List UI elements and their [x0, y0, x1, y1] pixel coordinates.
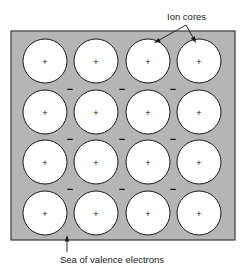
ion-core-charge-symbol: +: [93, 108, 98, 118]
ion-core-charge-symbol: +: [42, 209, 47, 219]
valence-electron-symbol: −: [67, 133, 73, 145]
ion-core-charge-symbol: +: [42, 108, 47, 118]
ion-core: +: [23, 39, 67, 83]
ion-core: +: [126, 39, 170, 83]
ion-core: +: [74, 191, 118, 235]
diagram-canvas: ++++++++++++++++ −−−−−−−−− Ion cores Sea…: [0, 0, 248, 269]
ion-core: +: [23, 140, 67, 184]
ion-core-charge-symbol: +: [93, 57, 98, 67]
valence-electron-symbol: −: [119, 133, 125, 145]
ion-core-charge-symbol: +: [42, 158, 47, 168]
valence-electron-symbol: −: [119, 83, 125, 95]
valence-electron-symbol: −: [170, 183, 176, 195]
valence-electron-symbol: −: [170, 83, 176, 95]
ion-core-charge-symbol: +: [196, 57, 201, 67]
ion-core: +: [177, 90, 221, 134]
ion-core: +: [177, 39, 221, 83]
ion-core: +: [126, 140, 170, 184]
ion-core: +: [126, 90, 170, 134]
ion-core: +: [23, 191, 67, 235]
ion-core-charge-symbol: +: [196, 108, 201, 118]
electron-sea-label: Sea of valence electrons: [60, 254, 164, 265]
ion-core: +: [74, 90, 118, 134]
valence-electron-symbol: −: [119, 183, 125, 195]
valence-electron-symbol: −: [67, 83, 73, 95]
ion-core: +: [177, 140, 221, 184]
ion-core-charge-symbol: +: [145, 209, 150, 219]
ion-core-charge-symbol: +: [196, 158, 201, 168]
valence-electron-symbol: −: [170, 133, 176, 145]
valence-electron-symbol: −: [67, 183, 73, 195]
ion-core: +: [177, 191, 221, 235]
metallic-bonding-diagram: ++++++++++++++++ −−−−−−−−− Ion cores Sea…: [0, 0, 248, 269]
ion-core-charge-symbol: +: [145, 57, 150, 67]
ion-core-charge-symbol: +: [93, 158, 98, 168]
ion-core-charge-symbol: +: [42, 57, 47, 67]
ion-core-charge-symbol: +: [145, 158, 150, 168]
ion-core: +: [23, 90, 67, 134]
ion-cores-label: Ion cores: [167, 11, 206, 22]
ion-core: +: [74, 39, 118, 83]
ion-core-charge-symbol: +: [145, 108, 150, 118]
ion-core: +: [74, 140, 118, 184]
ion-core-charge-symbol: +: [196, 209, 201, 219]
ion-core-charge-symbol: +: [93, 209, 98, 219]
ion-core: +: [126, 191, 170, 235]
